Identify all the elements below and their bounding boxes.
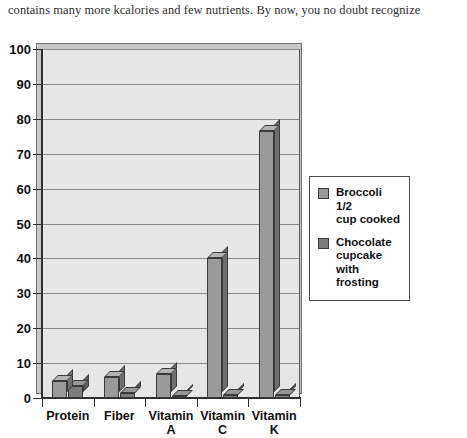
legend-label-broccoli: Broccoli 1/2 cup cooked: [336, 186, 401, 227]
y-tick-label: 60: [0, 184, 31, 195]
x-tick-label-line1: Vitamin: [145, 410, 197, 424]
x-tick-mark: [248, 399, 249, 407]
bar-cupcake: [275, 395, 290, 398]
y-tick-label: 30: [0, 288, 31, 299]
bar-side-face: [222, 246, 228, 392]
y-tick-label: 20: [0, 323, 31, 334]
bar-broccoli: [259, 131, 274, 398]
x-tick-label: VitaminK: [248, 410, 300, 437]
bar-broccoli: [52, 381, 67, 398]
y-tick-mark: [33, 398, 42, 399]
y-tick-mark: [33, 189, 42, 190]
y-tick-mark: [33, 84, 42, 85]
y-tick-mark: [33, 293, 42, 294]
bar-side-face: [274, 119, 280, 392]
y-tick-label: 90: [0, 79, 31, 90]
grid-line: [43, 119, 299, 120]
y-tick-label: 70: [0, 149, 31, 160]
x-tick-label-line2: K: [248, 424, 300, 438]
bar-chart-figure: 0102030405060708090100 ProteinFiberVitam…: [0, 34, 467, 438]
page-caption-text: contains many more kcalories and few nut…: [8, 2, 463, 18]
y-tick-label: 10: [0, 358, 31, 369]
legend-label-broccoli-line2: cup cooked: [336, 213, 400, 225]
legend-label-cupcake-line2: cupcake with: [336, 249, 382, 275]
x-tick-mark: [300, 399, 301, 407]
bar-cupcake: [223, 395, 238, 398]
legend-item-broccoli: Broccoli 1/2 cup cooked: [318, 186, 401, 227]
legend-label-cupcake-line3: frosting: [336, 276, 379, 288]
x-tick-label: VitaminA: [145, 410, 197, 437]
y-tick-label: 0: [0, 393, 31, 404]
y-tick-mark: [33, 363, 42, 364]
y-tick-mark: [33, 224, 42, 225]
x-tick-label: VitaminC: [197, 410, 249, 437]
x-tick-label-line1: Vitamin: [197, 410, 249, 424]
bar-broccoli: [156, 374, 171, 398]
grid-line: [43, 84, 299, 85]
x-tick-mark: [94, 399, 95, 407]
y-tick-mark: [33, 49, 42, 50]
x-tick-label-line2: A: [145, 424, 197, 438]
y-tick-mark: [33, 328, 42, 329]
y-tick-label: 80: [0, 114, 31, 125]
legend-item-cupcake: Chocolate cupcake with frosting: [318, 236, 401, 290]
y-tick-mark: [33, 119, 42, 120]
bar-side-face: [171, 362, 177, 392]
y-tick-label: 40: [0, 253, 31, 264]
legend-label-cupcake-line1: Chocolate: [336, 236, 392, 248]
x-tick-mark: [145, 399, 146, 407]
y-tick-mark: [33, 258, 42, 259]
x-tick-mark: [42, 399, 43, 407]
legend-swatch-cupcake: [318, 238, 329, 249]
grid-line: [43, 49, 299, 50]
bar-cupcake: [120, 393, 135, 398]
y-tick-mark: [33, 154, 42, 155]
x-tick-label-line1: Protein: [42, 410, 94, 424]
x-tick-label-line1: Fiber: [94, 410, 146, 424]
y-tick-label: 50: [0, 219, 31, 230]
legend-label-cupcake: Chocolate cupcake with frosting: [336, 236, 401, 290]
x-tick-label-line1: Vitamin: [248, 410, 300, 424]
x-tick-label-line2: C: [197, 424, 249, 438]
legend-swatch-broccoli: [318, 188, 329, 199]
legend-label-broccoli-line1: Broccoli 1/2: [336, 186, 382, 212]
x-tick-label: Protein: [42, 410, 94, 424]
bar-cupcake: [172, 396, 187, 398]
y-tick-label: 100: [0, 44, 31, 55]
chart-legend: Broccoli 1/2 cup cooked Chocolate cupcak…: [309, 176, 410, 301]
x-tick-label: Fiber: [94, 410, 146, 424]
bar-broccoli: [104, 377, 119, 398]
bar-broccoli: [207, 258, 222, 398]
x-tick-mark: [197, 399, 198, 407]
